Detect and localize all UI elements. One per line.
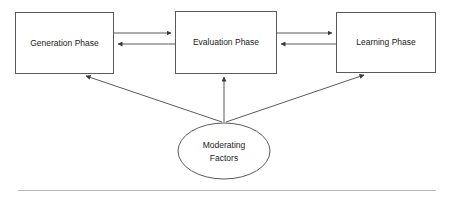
moderating-factors-label-line-2: Factors	[210, 153, 238, 163]
edge-moderating-to-generation[interactable]	[86, 76, 222, 122]
evaluation-phase-label: Evaluation Phase	[193, 37, 259, 47]
node-moderating-factors[interactable]: Moderating Factors	[178, 123, 270, 179]
node-learning-phase[interactable]: Learning Phase	[337, 13, 436, 73]
generation-phase-label: Generation Phase	[30, 38, 99, 48]
diagram-svg: Generation Phase Evaluation Phase Learni…	[0, 0, 449, 199]
moderating-factors-ellipse[interactable]	[178, 123, 270, 179]
diagram-canvas: Generation Phase Evaluation Phase Learni…	[0, 0, 449, 199]
moderating-factors-label-line-1: Moderating	[203, 140, 246, 150]
edge-moderating-to-learning[interactable]	[226, 75, 364, 122]
learning-phase-label: Learning Phase	[356, 37, 416, 47]
node-generation-phase[interactable]: Generation Phase	[16, 13, 114, 74]
node-evaluation-phase[interactable]: Evaluation Phase	[176, 12, 277, 74]
